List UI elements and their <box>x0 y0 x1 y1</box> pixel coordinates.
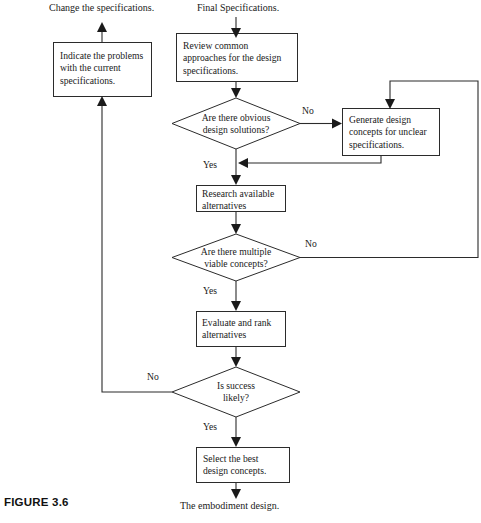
node-obvious-solutions-label: Are there obvious design solutions? <box>181 112 291 137</box>
node-evaluate-rank-label: Evaluate and rank alternatives <box>202 317 286 342</box>
arrowhead-obvious-yes-to-research <box>231 175 241 185</box>
edge-generate-back-to-spine <box>248 156 381 164</box>
node-multiple-concepts-label: Are there multiple viable concepts? <box>181 246 291 271</box>
arrowhead-indicate-to-change-spec <box>97 22 107 32</box>
edge-label-obvious-no: No <box>302 105 314 116</box>
node-review-approaches-label: Review common approaches for the design … <box>183 40 295 77</box>
node-indicate-problems-label: Indicate the problems with the current s… <box>60 50 148 87</box>
arrowhead-multiple-yes-to-evaluate <box>231 301 241 311</box>
flowchart-figure: Generate design concepts --> Research av… <box>0 0 481 523</box>
edge-success-no-to-indicate <box>102 106 172 392</box>
arrowhead-select-to-embodiment <box>231 489 241 499</box>
edge-label-success-yes: Yes <box>203 421 217 432</box>
edge-label-obvious-yes: Yes <box>203 159 217 170</box>
figure-caption: FIGURE 3.6 <box>4 496 69 508</box>
terminal-final-specifications: Final Specifications. <box>197 2 279 13</box>
edge-multiple-no-to-generate <box>300 81 478 258</box>
arrowhead-success-no-to-indicate <box>97 96 107 106</box>
arrowhead-review-to-obvious <box>231 88 241 98</box>
edge-label-success-no: No <box>147 371 159 382</box>
terminal-the-embodiment-design: The embodiment design. <box>180 500 279 511</box>
node-generate-concepts-label: Generate design concepts for unclear spe… <box>349 114 439 151</box>
arrowhead-generate-back-to-spine <box>238 158 248 168</box>
terminal-change-the-specifications: Change the specifications. <box>49 2 154 13</box>
arrowhead-multiple-no-to-generate <box>385 99 395 109</box>
node-select-best-label: Select the best design concepts. <box>203 453 289 478</box>
arrowhead-evaluate-to-success <box>231 357 241 367</box>
edge-label-multiple-no: No <box>305 238 317 249</box>
arrowhead-research-to-multiple <box>231 224 241 234</box>
arrowhead-success-yes-to-select <box>231 437 241 447</box>
node-is-success-likely-label: Is success likely? <box>196 380 276 405</box>
arrowhead-obvious-no-to-generate <box>332 119 342 129</box>
edge-label-multiple-yes: Yes <box>203 285 217 296</box>
node-research-alternatives-label: Research available alternatives <box>202 188 286 213</box>
